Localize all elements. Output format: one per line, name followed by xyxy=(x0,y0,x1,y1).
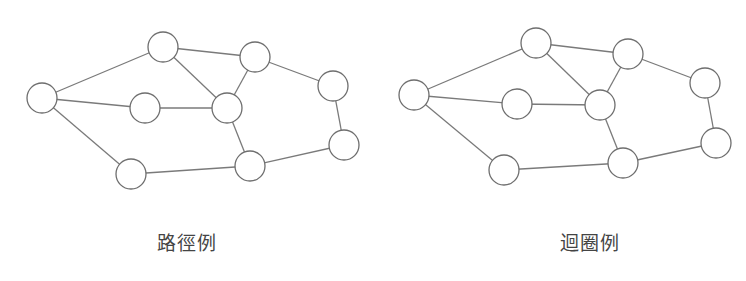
node-I xyxy=(489,155,519,185)
edge-I-H xyxy=(131,166,250,174)
edge-A-B xyxy=(414,43,536,95)
path-example-caption: 路徑例 xyxy=(157,228,217,255)
node-G xyxy=(701,128,731,158)
node-B xyxy=(521,28,551,58)
node-D xyxy=(318,71,348,101)
edge-I-H xyxy=(504,163,623,170)
node-E xyxy=(502,89,532,119)
nodes xyxy=(27,32,359,189)
path-example-graph xyxy=(27,32,359,189)
node-D xyxy=(690,68,720,98)
node-B xyxy=(148,32,178,62)
edge-A-B xyxy=(42,47,163,98)
node-H xyxy=(235,151,265,181)
cycle-example-graph xyxy=(399,28,731,185)
node-C xyxy=(613,39,643,69)
cycle-example-caption: 迴圈例 xyxy=(560,228,620,255)
node-C xyxy=(240,42,270,72)
edges xyxy=(414,43,716,170)
graph-diagrams xyxy=(0,0,746,281)
node-A xyxy=(27,83,57,113)
nodes xyxy=(399,28,731,185)
edge-A-I xyxy=(42,98,131,174)
node-H xyxy=(608,148,638,178)
edges xyxy=(42,47,344,174)
node-G xyxy=(329,130,359,160)
node-F xyxy=(585,90,615,120)
node-I xyxy=(116,159,146,189)
node-A xyxy=(399,80,429,110)
edge-A-I xyxy=(414,95,504,170)
node-E xyxy=(130,93,160,123)
node-F xyxy=(212,93,242,123)
